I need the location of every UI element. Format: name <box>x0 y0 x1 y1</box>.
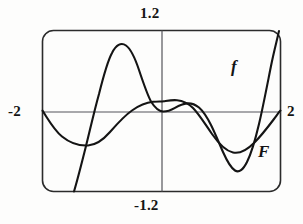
graph-figure: 1.2 -1.2 -2 2 f F <box>0 0 303 224</box>
curve-label-f: f <box>231 58 237 75</box>
y-min-tick-label: -1.2 <box>134 198 159 213</box>
curve-f <box>74 31 279 192</box>
curve-label-F: F <box>258 143 269 160</box>
plot-canvas <box>0 0 303 224</box>
x-min-tick-label: -2 <box>8 104 21 119</box>
y-max-tick-label: 1.2 <box>140 6 159 21</box>
x-max-tick-label: 2 <box>287 104 295 119</box>
